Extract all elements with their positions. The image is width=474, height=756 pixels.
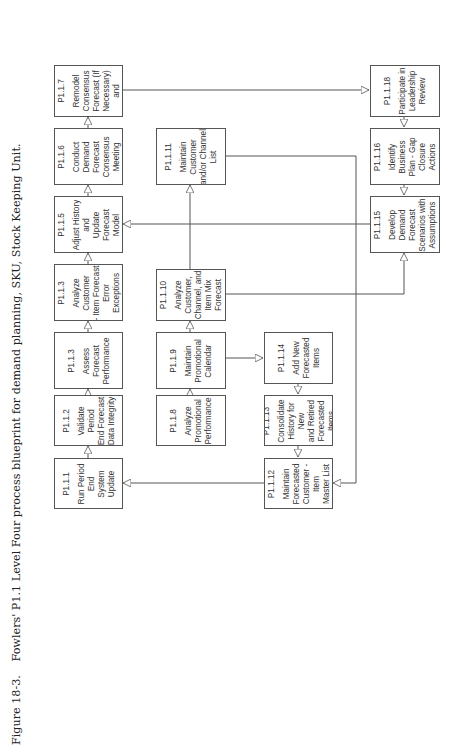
process-label: Adjust History and Update Forecast Model bbox=[71, 197, 121, 253]
process-label: Consolidate History for New and Retired … bbox=[276, 396, 333, 446]
process-box-p1112: P1.1.12Maintain Forecasted Customer - It… bbox=[264, 458, 333, 509]
process-box-p113-assess: P1.1.3Assess Forecast Performance bbox=[54, 332, 123, 389]
process-box-p1118: P1.1.18Participate in Leadership Review bbox=[370, 65, 440, 117]
process-box-p1115: P1.1.15Develop Demand Forecast Scenarios… bbox=[370, 196, 440, 253]
process-id: P1.1.1 bbox=[61, 459, 71, 509]
process-box-p1113: P1.1.13Consolidate History for New and R… bbox=[264, 395, 333, 446]
process-box-p118: P1.1.8Analyze Promotional Performance bbox=[156, 395, 226, 446]
process-label: Analyze Promotional Performance bbox=[184, 396, 214, 446]
process-label: Analyze Customer, Channel, and Item Mix … bbox=[174, 269, 224, 321]
process-id: P1.1.2 bbox=[61, 396, 71, 446]
process-box-p113-analyze: P1.1.3Analyze Customer - Item Forecast E… bbox=[54, 264, 123, 321]
process-id: P1.1.11 bbox=[164, 129, 174, 185]
process-box-p1114: P1.1.14Add New Forecasted Items bbox=[264, 332, 333, 384]
process-box-p119: P1.1.9Maintain Promotional Calendar bbox=[156, 332, 226, 389]
process-id: P1.1.3 bbox=[56, 265, 66, 321]
process-box-p111: P1.1.1Run Period End System Update bbox=[54, 458, 123, 509]
process-label: Maintain Customer and/or Channel List bbox=[179, 129, 219, 185]
process-label: Maintain Forecasted Customer - Item Mast… bbox=[281, 459, 331, 509]
process-box-p117: P1.1.7Remodel Consensus Forecast (If Nec… bbox=[54, 65, 123, 117]
process-box-p112: P1.1.2Validate Period End Forecast Data … bbox=[54, 395, 123, 446]
process-label: Identify Business Plan - Gap Closure Act… bbox=[388, 129, 438, 185]
process-label: Maintain Promotional Calendar bbox=[184, 333, 214, 389]
process-box-p1111: P1.1.11Maintain Customer and/or Channel … bbox=[156, 128, 226, 185]
process-label: Conduct Demand Forecast Consensus Meetin… bbox=[71, 129, 121, 185]
process-label: Analyze Customer - Item Forecast Error E… bbox=[71, 265, 121, 321]
process-box-p1110: P1.1.10Analyze Customer, Channel, and It… bbox=[156, 269, 226, 321]
process-id: P1.1.16 bbox=[373, 129, 383, 185]
process-box-p1116: P1.1.16Identify Business Plan - Gap Clos… bbox=[370, 128, 440, 185]
process-box-p115: P1.1.5Adjust History and Update Forecast… bbox=[54, 196, 123, 253]
process-label: Validate Period End Forecast Data Integr… bbox=[76, 396, 116, 446]
process-id: P1.1.3 bbox=[66, 333, 76, 389]
process-label: Run Period End System Update bbox=[76, 459, 116, 509]
process-id: P1.1.6 bbox=[56, 129, 66, 185]
process-id: P1.1.7 bbox=[56, 66, 66, 116]
process-id: P1.1.13 bbox=[264, 396, 271, 446]
process-id: P1.1.14 bbox=[276, 332, 286, 384]
edge-p1110-p1115 bbox=[225, 253, 404, 294]
process-id: P1.1.12 bbox=[266, 459, 276, 509]
process-box-p116: P1.1.6Conduct Demand Forecast Consensus … bbox=[54, 128, 123, 185]
process-id: P1.1.9 bbox=[169, 333, 179, 389]
process-id: P1.1.8 bbox=[169, 396, 179, 446]
process-id: P1.1.5 bbox=[56, 197, 66, 253]
process-label: Assess Forecast Performance bbox=[81, 333, 111, 389]
process-id: P1.1.10 bbox=[159, 269, 169, 321]
process-label: Add New Forecasted Items bbox=[291, 332, 321, 384]
process-label: Participate in Leadership Review bbox=[398, 66, 428, 116]
process-label: Develop Demand Forecast Scenarios with A… bbox=[388, 197, 438, 253]
process-id: P1.1.18 bbox=[383, 66, 393, 116]
process-label: Remodel Consensus Forecast (If Necessary… bbox=[71, 66, 121, 116]
process-id: P1.1.15 bbox=[373, 197, 383, 253]
